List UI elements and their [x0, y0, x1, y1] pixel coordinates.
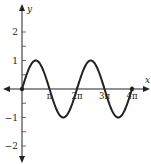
sine-chart: 21−1−2π2π3π4π y x [0, 0, 151, 164]
x-axis-label: x [145, 75, 150, 85]
y-axis-down-arrow-icon [19, 156, 25, 163]
y-tick-label: −2 [5, 141, 18, 151]
y-axis-label: y [26, 4, 33, 14]
y-tick-label: 1 [12, 56, 18, 66]
axes [3, 4, 150, 163]
x-axis-left-arrow-icon [3, 86, 10, 92]
y-tick-label: −1 [5, 113, 18, 123]
endpoint-dot [20, 87, 24, 91]
x-axis-right-arrow-icon [143, 86, 150, 92]
y-axis-up-arrow-icon [19, 4, 25, 11]
y-tick-label: 2 [12, 27, 18, 37]
endpoint-dot [130, 87, 134, 91]
